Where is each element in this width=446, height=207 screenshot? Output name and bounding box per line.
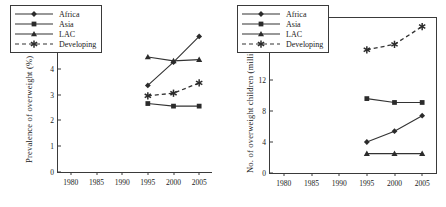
square-marker xyxy=(145,101,150,106)
y-axis-tick-mark xyxy=(270,173,273,174)
legend-item-asia: Asia xyxy=(241,19,323,29)
legend-label: Asia xyxy=(281,20,301,29)
legend-label: LAC xyxy=(54,30,75,39)
legend-key-triangle-icon xyxy=(241,29,281,39)
square-marker xyxy=(392,100,397,105)
x-axis-tick-mark xyxy=(96,172,97,175)
x-axis-tick-mark xyxy=(422,173,423,176)
x-axis-tick-mark xyxy=(394,173,395,176)
square-marker xyxy=(32,22,37,27)
x-axis-tick-mark xyxy=(122,172,123,175)
square-marker xyxy=(197,104,202,109)
legend-label: Developing xyxy=(281,40,323,49)
asterisk-marker xyxy=(196,79,202,86)
y-axis-tick-mark xyxy=(270,142,273,143)
y-axis-tick-mark xyxy=(58,146,61,147)
x-axis-tick-label: 1990 xyxy=(115,172,130,187)
legend-item-lac: LAC xyxy=(14,29,96,39)
y-axis-label: Prevalence of overweight (%) xyxy=(24,56,34,163)
legend-key-square-icon xyxy=(14,19,54,29)
x-axis-tick-label: 2000 xyxy=(387,173,402,188)
legend-item-africa: Africa xyxy=(241,9,323,19)
x-axis-tick-mark xyxy=(311,173,312,176)
diamond-marker xyxy=(392,128,398,134)
x-axis-tick-label: 2005 xyxy=(415,173,430,188)
y-axis-tick-label: 4 xyxy=(50,64,58,73)
y-axis-tick-label: 3 xyxy=(50,90,58,99)
legend-key-asterisk-icon xyxy=(14,39,54,49)
legend-left: AfricaAsiaLACDeveloping xyxy=(10,5,102,53)
diamond-marker xyxy=(364,139,370,145)
y-axis-tick-mark xyxy=(58,94,61,95)
legend-key-diamond-icon xyxy=(241,9,281,19)
x-axis-tick-mark xyxy=(283,173,284,176)
legend-key-square-icon xyxy=(241,19,281,29)
x-axis-tick-label: 1990 xyxy=(332,173,347,188)
square-marker xyxy=(171,104,176,109)
x-axis-tick-mark xyxy=(70,172,71,175)
y-axis-tick-label: 12 xyxy=(259,76,271,85)
x-axis-tick-mark xyxy=(173,172,174,175)
y-axis-tick-label: 0 xyxy=(50,168,58,177)
x-axis-tick-label: 2005 xyxy=(192,172,207,187)
legend-item-africa: Africa xyxy=(14,9,96,19)
diamond-marker xyxy=(31,11,37,17)
square-marker xyxy=(364,96,369,101)
legend-item-developing: Developing xyxy=(14,39,96,49)
y-axis-tick-label: 2 xyxy=(50,116,58,125)
diamond-marker xyxy=(258,11,264,17)
legend-label: LAC xyxy=(281,30,302,39)
x-axis-tick-label: 1980 xyxy=(63,172,78,187)
legend-key-diamond-icon xyxy=(14,9,54,19)
x-axis-tick-label: 1985 xyxy=(304,173,319,188)
y-axis-label: No. of overweight children (million) xyxy=(245,41,255,173)
legend-label: Asia xyxy=(54,20,74,29)
y-axis-tick-mark xyxy=(58,68,61,69)
x-axis-tick-label: 1980 xyxy=(276,173,291,188)
y-axis-tick-mark xyxy=(58,120,61,121)
y-axis-tick-mark xyxy=(270,80,273,81)
y-axis-tick-label: 8 xyxy=(262,107,270,116)
x-axis-tick-label: 1995 xyxy=(140,172,155,187)
chart-panel-right: No. of overweight children (million) 048… xyxy=(223,0,446,207)
x-axis-tick-mark xyxy=(147,172,148,175)
asterisk-marker xyxy=(419,23,425,30)
asterisk-marker xyxy=(391,41,397,48)
x-axis-tick-mark xyxy=(199,172,200,175)
legend-key-triangle-icon xyxy=(14,29,54,39)
y-axis-tick-label: 0 xyxy=(262,169,270,178)
legend-item-lac: LAC xyxy=(241,29,323,39)
legend-key-asterisk-icon xyxy=(241,39,281,49)
y-axis-tick-mark xyxy=(58,172,61,173)
chart-panel-left: Prevalence of overweight (%) 01234561980… xyxy=(0,0,223,207)
x-axis-tick-mark xyxy=(339,173,340,176)
diamond-marker xyxy=(419,113,425,119)
legend-label: Africa xyxy=(281,10,306,19)
x-axis-tick-label: 2000 xyxy=(166,172,181,187)
legend-label: Africa xyxy=(54,10,79,19)
x-axis-tick-label: 1985 xyxy=(89,172,104,187)
legend-label: Developing xyxy=(54,40,96,49)
y-axis-tick-mark xyxy=(270,111,273,112)
triangle-marker xyxy=(145,54,151,59)
square-marker xyxy=(259,22,264,27)
legend-item-asia: Asia xyxy=(14,19,96,29)
x-axis-tick-label: 1995 xyxy=(359,173,374,188)
legend-item-developing: Developing xyxy=(241,39,323,49)
two-panel-line-chart-figure: Prevalence of overweight (%) 01234561980… xyxy=(0,0,446,207)
y-axis-tick-label: 1 xyxy=(50,142,58,151)
legend-right: AfricaAsiaLACDeveloping xyxy=(237,5,329,53)
x-axis-tick-mark xyxy=(366,173,367,176)
square-marker xyxy=(420,100,425,105)
y-axis-tick-label: 4 xyxy=(262,138,270,147)
